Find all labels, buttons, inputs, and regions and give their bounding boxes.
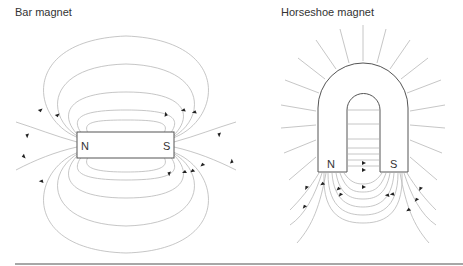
bar-magnet: N S	[77, 132, 174, 158]
magnetic-field-diagram: N S	[0, 0, 463, 266]
horseshoe-radiating-lines	[281, 25, 445, 180]
horseshoe-north-pole-label: N	[327, 158, 335, 170]
horseshoe-gap-lines	[348, 110, 379, 166]
horseshoe-arrows	[301, 161, 423, 211]
horseshoe-south-pole-label: S	[390, 158, 397, 170]
horseshoe-bottom-field-lines	[290, 173, 436, 243]
bar-south-pole-label: S	[163, 140, 170, 152]
bar-north-pole-label: N	[81, 140, 89, 152]
horseshoe-magnet: N S	[318, 63, 408, 172]
